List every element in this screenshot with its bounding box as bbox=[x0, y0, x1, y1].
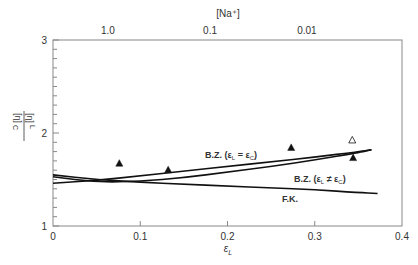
x-tick-label: 0.2 bbox=[221, 231, 235, 242]
top-tick-label: 1.0 bbox=[101, 25, 115, 36]
filled-triangle-marker bbox=[288, 144, 295, 151]
label-bz-notequal: B.Z. (εL ≠ εC) bbox=[294, 174, 346, 185]
svg-text:[η]L: [η]L bbox=[25, 113, 36, 129]
x-tick-label: 0.1 bbox=[133, 231, 147, 242]
x-tick-label: 0.4 bbox=[395, 231, 409, 242]
top-axis-title: [Na⁺] bbox=[216, 8, 240, 19]
open-triangle-marker bbox=[349, 136, 356, 143]
filled-triangle-marker bbox=[116, 160, 123, 167]
chart: 00.10.20.30.41231.00.10.01 [Na⁺] εL [η]L… bbox=[0, 0, 418, 265]
plot-area bbox=[53, 40, 402, 226]
y-tick-label: 1 bbox=[41, 221, 47, 232]
axis-ticks bbox=[53, 40, 315, 226]
y-axis-title: [η]L [η]C bbox=[12, 111, 36, 141]
top-tick-label: 0.1 bbox=[203, 25, 217, 36]
y-tick-label: 3 bbox=[41, 35, 47, 46]
filled-triangle-marker bbox=[350, 154, 357, 161]
top-tick-label: 0.01 bbox=[297, 25, 317, 36]
x-axis-title: εL bbox=[224, 243, 232, 256]
y-tick-label: 2 bbox=[41, 128, 47, 139]
filled-triangle-marker bbox=[165, 166, 172, 173]
label-bz-equal: B.Z. (εL = εC) bbox=[205, 150, 257, 161]
label-fk: F.K. bbox=[282, 194, 298, 204]
axis-tick-labels: 00.10.20.30.41231.00.10.01 bbox=[41, 25, 409, 242]
x-tick-label: 0.3 bbox=[308, 231, 322, 242]
x-tick-label: 0 bbox=[50, 231, 56, 242]
svg-text:[η]C: [η]C bbox=[12, 113, 23, 130]
